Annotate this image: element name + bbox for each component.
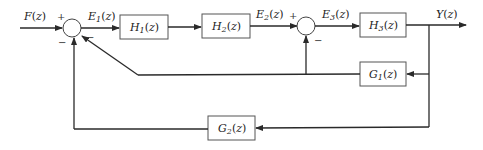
block-h3-label: H3(z) <box>368 19 398 33</box>
block-h1-label: H1(z) <box>129 21 159 35</box>
block-diagram: F(z) + − − E1(z) H1(z) H2(z) E2(z) + − E… <box>0 0 483 150</box>
g1-to-summer1-line <box>82 36 138 75</box>
e3-label: E3(z) <box>321 8 350 22</box>
summer2-plus-sign: + <box>289 10 297 21</box>
block-h2-label: H2(z) <box>211 20 241 34</box>
summer1-minus-sign-bottom: − <box>58 37 66 48</box>
g1-output-line <box>138 74 360 75</box>
summer2-minus-sign: − <box>314 35 322 46</box>
e1-label: E1(z) <box>87 10 116 24</box>
summing-junction-1 <box>63 19 81 37</box>
g2-input-line <box>256 127 429 128</box>
block-g1-label: G1(z) <box>369 68 397 82</box>
summer1-plus-sign: + <box>57 11 65 22</box>
input-label: F(z) <box>23 10 46 23</box>
block-g2-label: G2(z) <box>218 122 246 136</box>
e2-label: E2(z) <box>255 8 284 22</box>
output-label: Y(z) <box>436 8 458 21</box>
summing-junction-2 <box>297 17 315 35</box>
